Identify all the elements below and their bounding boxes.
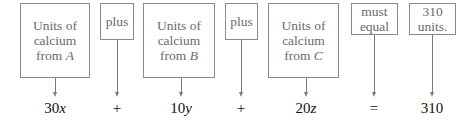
box-b-line1: Units of (157, 18, 201, 33)
box-a-line3: from A (36, 48, 74, 63)
arrow-b (181, 78, 182, 93)
units-line2: units. (418, 19, 448, 34)
must-equal-line2: equal (360, 19, 389, 34)
box-b-line2: calcium (158, 33, 201, 48)
plus-1-label: plus (106, 14, 129, 29)
box-must-equal: must equal (351, 3, 398, 35)
box-plus-1: plus (100, 3, 134, 40)
arrowhead-a-icon (53, 92, 57, 97)
term-equals: = (354, 100, 394, 117)
box-calcium-from-c: Units of calcium from C (268, 3, 339, 78)
arrowhead-equal-icon (372, 92, 376, 97)
box-c-line1: Units of (282, 18, 326, 33)
box-c-line2: calcium (282, 33, 325, 48)
box-plus-2: plus (225, 3, 258, 40)
term-20z: 20z (286, 100, 326, 117)
arrow-a (55, 78, 56, 93)
arrow-c (306, 78, 307, 93)
units-line1: 310 (422, 4, 442, 19)
term-30x: 30x (35, 100, 75, 117)
arrowhead-units-icon (430, 92, 434, 97)
box-calcium-from-a: Units of calcium from A (20, 3, 90, 78)
plus-2-label: plus (230, 14, 253, 29)
box-a-line2: calcium (34, 33, 77, 48)
term-10y: 10y (161, 100, 201, 117)
term-310: 310 (412, 100, 452, 117)
must-equal-line1: must (361, 4, 387, 19)
arrow-plus-2 (241, 40, 242, 93)
box-b-line3: from B (160, 48, 198, 63)
box-a-line1: Units of (33, 18, 77, 33)
term-plus-1: + (97, 100, 137, 117)
box-c-line3: from C (284, 48, 323, 63)
term-plus-2: + (221, 100, 261, 117)
arrow-plus-1 (117, 40, 118, 93)
arrow-equal (374, 35, 375, 93)
arrow-units (432, 35, 433, 93)
arrowhead-plus-1-icon (115, 92, 119, 97)
arrowhead-b-icon (179, 92, 183, 97)
arrowhead-plus-2-icon (239, 92, 243, 97)
box-calcium-from-b: Units of calcium from B (143, 3, 215, 78)
box-310-units: 310 units. (409, 3, 456, 35)
arrowhead-c-icon (304, 92, 308, 97)
